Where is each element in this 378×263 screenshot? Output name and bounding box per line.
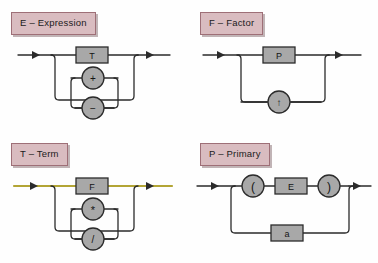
node-label-E: E <box>288 182 294 192</box>
node-F: F <box>76 178 108 194</box>
entry-arrow-icon <box>217 51 225 59</box>
diagram-label-term: T – Term <box>11 143 68 166</box>
syntax-diagram-sheet: E – Expression <box>0 0 378 263</box>
node-label-plus: + <box>90 73 96 84</box>
node-label-minus: − <box>90 103 96 114</box>
node-label-multiply: * <box>91 204 96 216</box>
node-label-divide: / <box>92 234 95 245</box>
node-minus: − <box>82 97 104 119</box>
diagram-panel-primary: P – Primary ( <box>189 131 378 262</box>
node-label-open-paren: ( <box>251 180 255 194</box>
entry-arrow-icon <box>30 182 38 190</box>
entry-arrow-icon <box>32 51 40 59</box>
exit-arrow-icon <box>146 51 154 59</box>
diagram-panel-expression: E – Expression <box>0 0 189 131</box>
railroad-diagram-primary: ( E ) a <box>189 167 378 262</box>
exit-arrow-icon <box>146 182 154 190</box>
diagram-label-factor: F – Factor <box>200 12 263 35</box>
node-label-P: P <box>276 51 282 61</box>
node-caret: ↑ <box>268 91 290 113</box>
node-label-F: F <box>89 182 95 192</box>
node-label-a: a <box>284 229 289 239</box>
railroad-diagram-factor: P ↑ <box>189 36 378 131</box>
railroad-diagram-term: F * / <box>0 167 189 262</box>
diagram-label-expression: E – Expression <box>11 12 96 35</box>
exit-arrow-icon <box>353 182 361 190</box>
diagram-panel-factor: F – Factor P ↑ <box>189 0 378 131</box>
node-close-paren: ) <box>318 175 340 197</box>
node-P: P <box>263 47 295 63</box>
node-plus: + <box>82 67 104 89</box>
node-multiply: * <box>82 198 104 220</box>
railroad-diagram-expression: T + − <box>0 36 189 131</box>
node-E: E <box>275 178 307 194</box>
node-label-caret: ↑ <box>277 97 282 108</box>
node-label-T: T <box>89 51 95 61</box>
node-label-close-paren: ) <box>327 180 331 194</box>
node-a: a <box>271 225 303 241</box>
node-open-paren: ( <box>242 175 264 197</box>
diagram-panel-term: T – Term F * <box>0 131 189 262</box>
node-divide: / <box>82 228 104 250</box>
diagram-label-primary: P – Primary <box>200 143 270 166</box>
exit-arrow-icon <box>335 51 343 59</box>
entry-arrow-icon <box>211 182 219 190</box>
node-T: T <box>76 47 108 63</box>
